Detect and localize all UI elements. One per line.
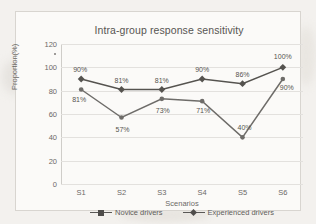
- chart-legend: Novice driversExperienced drivers: [61, 208, 303, 217]
- plot-area: 81%57%73%71%40%90%90%81%81%90%86%100%: [61, 44, 303, 184]
- data-label: 81%: [155, 76, 169, 83]
- data-label: 73%: [156, 106, 170, 113]
- data-label: 40%: [237, 124, 251, 131]
- data-label: 81%: [114, 76, 128, 83]
- y-axis-tick-label: 100: [17, 63, 57, 72]
- legend-item-novice-drivers[interactable]: Novice drivers: [90, 208, 163, 217]
- y-axis-tick-label: 120: [17, 40, 57, 49]
- data-label: 71%: [196, 107, 210, 114]
- legend-marker-icon: [183, 209, 205, 216]
- legend-marker-icon: [90, 209, 112, 216]
- data-point-marker: [200, 99, 205, 104]
- data-point-marker: [78, 76, 85, 83]
- data-point-marker: [118, 86, 125, 93]
- chart-title: Intra-group response sensitivity: [16, 24, 300, 36]
- series-lines: [61, 44, 303, 184]
- y-axis-tick-label: 20: [17, 156, 57, 165]
- chart-container: Intra-group response sensitivity Proport…: [15, 11, 301, 211]
- gridline: [61, 184, 303, 185]
- x-axis-tick-label: S1: [77, 188, 86, 197]
- data-label: 86%: [235, 70, 249, 77]
- data-label: 90%: [280, 84, 294, 91]
- legend-item-experienced-drivers[interactable]: Experienced drivers: [183, 208, 274, 217]
- legend-label: Experienced drivers: [208, 208, 274, 217]
- y-axis-tick-label: 80: [17, 86, 57, 95]
- y-axis-tick-label: 40: [17, 133, 57, 142]
- y-axis-tick-label: 0: [17, 180, 57, 189]
- data-label: 57%: [115, 125, 129, 132]
- x-axis-tick-label: S6: [278, 188, 287, 197]
- data-point-marker: [281, 77, 286, 82]
- data-point-marker: [79, 87, 84, 92]
- data-label: 81%: [72, 95, 86, 102]
- data-label: 90%: [195, 66, 209, 73]
- data-point-marker: [199, 76, 206, 83]
- x-axis-tick-label: S4: [198, 188, 207, 197]
- x-axis-tick-label: S5: [238, 188, 247, 197]
- data-point-marker: [279, 64, 286, 71]
- data-label: 100%: [274, 53, 292, 60]
- x-axis-tick-label: S3: [157, 188, 166, 197]
- data-point-marker: [119, 115, 124, 120]
- y-axis-tick-label: 60: [17, 110, 57, 119]
- data-label: 90%: [73, 66, 87, 73]
- data-point-marker: [240, 135, 245, 140]
- data-point-marker: [158, 86, 165, 93]
- legend-label: Novice drivers: [115, 208, 163, 217]
- series-line-novice-drivers: [81, 79, 283, 137]
- data-point-marker: [160, 97, 165, 102]
- data-point-marker: [239, 80, 246, 87]
- x-axis-title: Scenarios: [61, 199, 303, 208]
- y-axis-tick-labels: 020406080100120: [16, 44, 57, 184]
- x-axis-tick-label: S2: [117, 188, 126, 197]
- series-line-experienced-drivers: [81, 67, 283, 89]
